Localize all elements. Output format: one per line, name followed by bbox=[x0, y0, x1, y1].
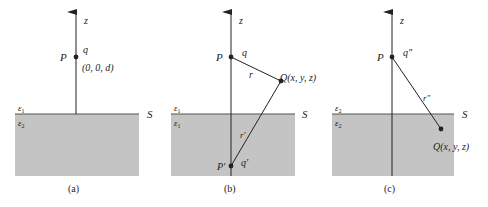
caption-c: (c) bbox=[384, 183, 395, 195]
panel-b: z P q r Q(x, y, z) r' P' q' ε1 ε1 S (b) bbox=[171, 12, 317, 195]
charge-q-label: q bbox=[83, 44, 88, 55]
field-point-q-label: Q(x, y, z) bbox=[433, 141, 470, 153]
field-point-q bbox=[439, 127, 444, 132]
distance-r-double-prime-label: r" bbox=[423, 93, 431, 103]
coordinate-label: (0, 0, d) bbox=[82, 62, 114, 74]
lower-medium-region bbox=[15, 114, 139, 176]
charge-point-p bbox=[229, 55, 234, 60]
charge-point-p bbox=[390, 55, 395, 60]
panel-c: z P q" r" Q(x, y, z) ε2 ε2 S (c) bbox=[332, 12, 470, 195]
upper-medium-label: ε1 bbox=[18, 103, 25, 114]
image-charge-q-prime-label: q' bbox=[241, 157, 249, 168]
z-axis-label: z bbox=[83, 15, 88, 26]
upper-medium-label: ε1 bbox=[174, 103, 181, 114]
charge-q-label: q bbox=[242, 47, 247, 58]
distance-r-line bbox=[231, 57, 281, 81]
image-point-p-prime-label: P' bbox=[216, 161, 226, 172]
charge-q-double-prime-label: q" bbox=[403, 47, 413, 58]
upper-medium-label: ε2 bbox=[335, 103, 342, 114]
surface-s-label: S bbox=[302, 108, 308, 120]
point-p-label: P bbox=[376, 51, 384, 63]
image-charge-diagram: z P q (0, 0, d) ε1 ε2 S (a) z P q r Q(x,… bbox=[0, 0, 488, 207]
caption-b: (b) bbox=[224, 183, 236, 195]
point-p-label: P bbox=[59, 51, 67, 63]
z-axis-label: z bbox=[399, 15, 404, 26]
panel-a: z P q (0, 0, d) ε1 ε2 S (a) bbox=[15, 12, 153, 195]
caption-a: (a) bbox=[68, 183, 79, 195]
field-point-q-label: Q(x, y, z) bbox=[280, 72, 317, 84]
image-point-p-prime bbox=[229, 164, 234, 169]
surface-s-label: S bbox=[147, 108, 153, 120]
point-p-label: P bbox=[215, 51, 223, 63]
z-axis-label: z bbox=[238, 15, 243, 26]
surface-s-label: S bbox=[462, 108, 468, 120]
distance-r-label: r bbox=[249, 69, 253, 80]
charge-point-p bbox=[74, 55, 79, 60]
